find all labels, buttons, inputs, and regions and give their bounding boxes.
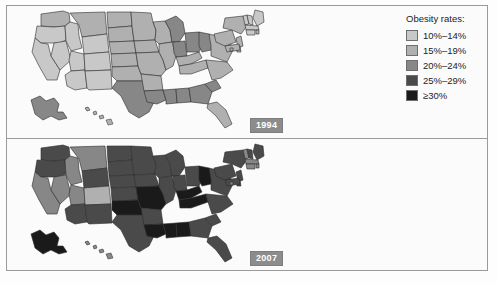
us-map-1994 xyxy=(13,8,313,136)
state-ut xyxy=(69,51,85,71)
state-co xyxy=(84,186,111,205)
state-nd xyxy=(107,146,132,162)
state-ma xyxy=(245,25,259,30)
state-hi-islet-1 xyxy=(99,249,104,253)
state-hi xyxy=(85,241,90,245)
state-nm xyxy=(85,70,112,90)
state-co xyxy=(84,52,111,71)
state-hi xyxy=(85,107,90,111)
state-wy xyxy=(82,34,109,54)
state-ct xyxy=(246,164,255,169)
state-ia xyxy=(134,40,159,53)
state-ne xyxy=(109,41,136,54)
state-ak xyxy=(31,96,67,120)
legend-label-1: 15%–19% xyxy=(423,45,466,56)
state-mn xyxy=(131,146,156,175)
state-ri xyxy=(256,164,259,168)
state-me xyxy=(253,10,264,26)
state-ms xyxy=(163,89,177,104)
map-panel-2007: 2007 xyxy=(7,140,401,270)
state-ne xyxy=(109,175,136,188)
state-fl xyxy=(207,102,232,128)
legend-label-2: 20%–24% xyxy=(423,60,466,71)
obesity-rates-figure: 1994 2007 Obesity rates: 10%–14% 15%–19%… xyxy=(0,0,497,283)
state-or xyxy=(35,160,66,177)
state-ct xyxy=(246,30,255,35)
state-nc xyxy=(206,194,233,214)
state-al xyxy=(176,88,191,103)
state-hi-islet-0 xyxy=(93,111,97,115)
state-ut xyxy=(69,185,85,205)
state-ak xyxy=(31,230,67,254)
state-la xyxy=(144,90,166,104)
state-al xyxy=(176,222,191,237)
legend-swatch-4 xyxy=(406,90,418,101)
legend-swatch-1 xyxy=(406,45,418,56)
state-ks xyxy=(111,187,138,201)
state-la xyxy=(144,224,166,238)
state-sd xyxy=(108,160,134,176)
legend-swatch-3 xyxy=(406,75,418,86)
legend-swatch-0 xyxy=(406,30,418,41)
state-ms xyxy=(163,223,177,238)
legend-item-1: 15%–19% xyxy=(406,43,488,57)
state-az xyxy=(65,204,87,224)
state-ar xyxy=(141,74,163,91)
state-wy xyxy=(82,168,109,188)
state-in xyxy=(173,175,187,191)
legend-label-0: 10%–14% xyxy=(423,30,466,41)
state-fl xyxy=(207,236,232,262)
state-ks xyxy=(111,53,138,67)
year-label-2007: 2007 xyxy=(250,251,283,266)
legend: Obesity rates: 10%–14% 15%–19% 20%–24% 2… xyxy=(406,13,488,103)
state-nm xyxy=(85,204,112,224)
year-label-1994: 1994 xyxy=(250,118,283,133)
state-dc xyxy=(230,48,233,51)
legend-item-3: 25%–29% xyxy=(406,73,488,87)
legend-item-4: ≥30% xyxy=(406,88,488,102)
state-wa xyxy=(41,11,70,27)
state-ar xyxy=(141,208,163,225)
legend-title: Obesity rates: xyxy=(406,13,488,25)
state-hi-islet-2 xyxy=(106,119,113,125)
legend-item-0: 10%–14% xyxy=(406,28,488,42)
state-hi-islet-2 xyxy=(106,253,113,259)
legend-label-3: 25%–29% xyxy=(423,75,466,86)
state-ma xyxy=(245,159,259,164)
state-az xyxy=(65,70,87,90)
state-nd xyxy=(107,12,132,28)
legend-label-4: ≥30% xyxy=(423,90,447,101)
state-me xyxy=(253,144,264,160)
state-ia xyxy=(134,174,159,187)
state-or xyxy=(35,26,66,43)
state-in xyxy=(173,41,187,57)
state-hi-islet-1 xyxy=(99,115,104,119)
legend-item-2: 20%–24% xyxy=(406,58,488,72)
state-hi-islet-0 xyxy=(93,245,97,249)
panel-divider xyxy=(6,138,488,139)
state-nc xyxy=(206,60,233,80)
map-panel-1994: 1994 xyxy=(7,6,401,137)
state-dc xyxy=(230,182,233,185)
state-wa xyxy=(41,145,70,161)
legend-swatch-2 xyxy=(406,60,418,71)
state-mn xyxy=(131,12,156,41)
state-sd xyxy=(108,26,134,42)
state-ri xyxy=(256,30,259,34)
